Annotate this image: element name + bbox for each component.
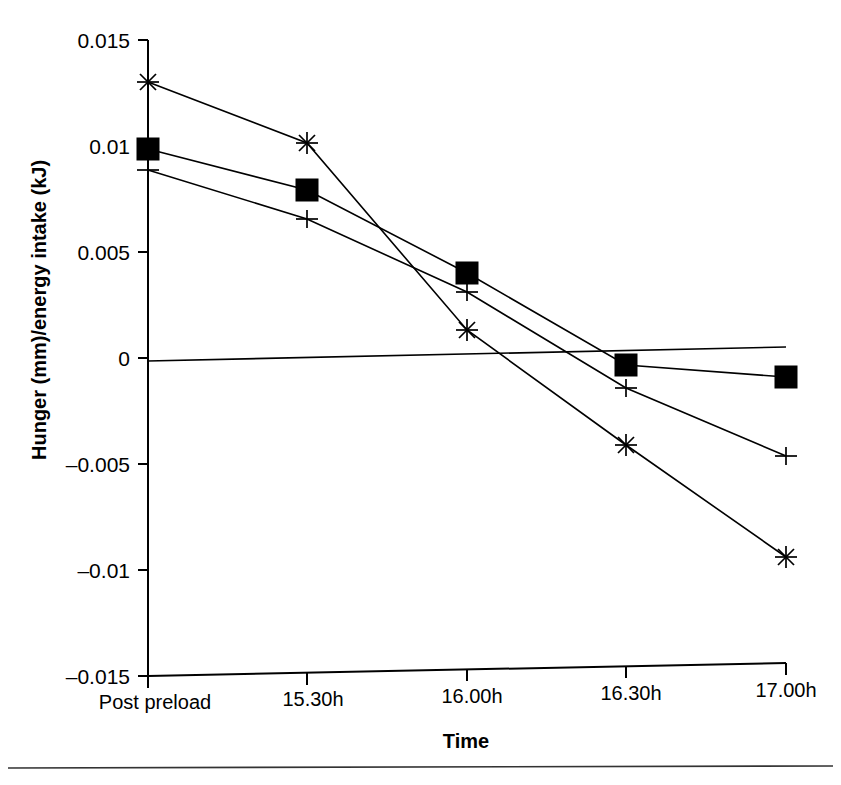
x-axis-title: Time <box>443 730 489 752</box>
y-tick-label-5: –0.01 <box>77 559 130 582</box>
x-tick-label-1: 15.30h <box>282 688 343 710</box>
x-tick-label-4: 17.00h <box>755 679 816 701</box>
x-tick-label-0: Post preload <box>99 691 211 713</box>
x-tick-label-3: 16.30h <box>600 682 661 704</box>
y-tick-label-6: –0.015 <box>66 665 130 688</box>
line-chart: 0.015 0.01 0.005 0 –0.005 –0.01 –0.015 P… <box>0 0 841 785</box>
y-axis-title: Hunger (mm)/energy intake (kJ) <box>28 160 50 460</box>
y-tick-label-1: 0.01 <box>89 135 130 158</box>
y-tick-label-4: –0.005 <box>66 453 130 476</box>
y-tick-label-3: 0 <box>118 347 130 370</box>
y-tick-label-2: 0.005 <box>77 241 130 264</box>
chart-figure: 0.015 0.01 0.005 0 –0.005 –0.01 –0.015 P… <box>0 0 841 785</box>
x-tick-label-2: 16.00h <box>441 685 502 707</box>
y-tick-label-0: 0.015 <box>77 29 130 52</box>
